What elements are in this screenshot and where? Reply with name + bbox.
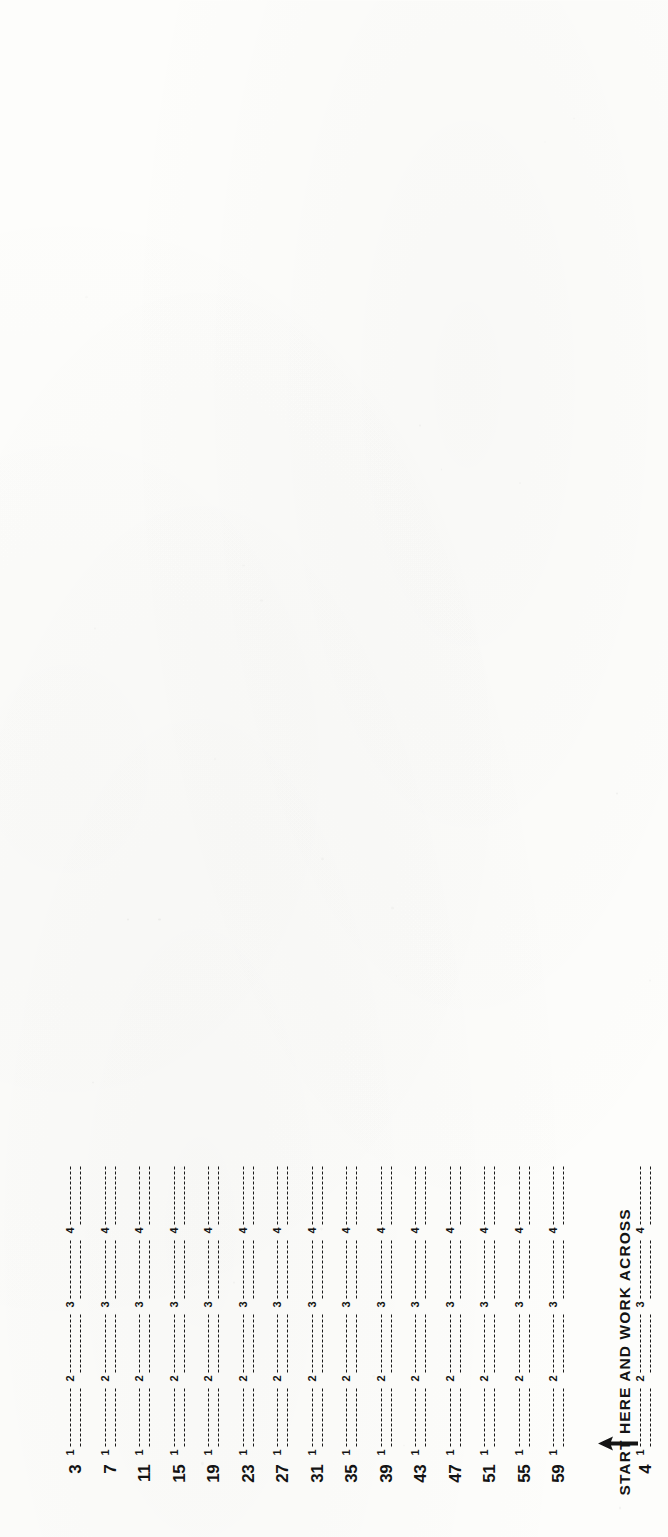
tally-cell[interactable]: 4 <box>377 1159 407 1233</box>
tally-cell[interactable]: 2 <box>204 1307 234 1381</box>
tally-cell[interactable]: 4 <box>549 1159 579 1233</box>
tally-cell[interactable]: 4 <box>239 1159 269 1233</box>
tally-cell[interactable]: 2 <box>515 1307 545 1381</box>
tally-cell[interactable]: 3 <box>239 1233 269 1307</box>
tally-cell-rules <box>205 1314 227 1372</box>
tally-cell[interactable]: 2 <box>308 1307 338 1381</box>
tally-cell[interactable]: 1 <box>515 1381 545 1455</box>
tally-cell[interactable]: 3 <box>342 1233 372 1307</box>
tally-rule-lower <box>356 1388 357 1446</box>
tally-cell[interactable]: 4 <box>636 1159 666 1233</box>
tally-rule-upper <box>139 1166 140 1224</box>
tally-cell[interactable]: 4 <box>411 1159 441 1233</box>
tally-cell-rules <box>516 1388 538 1446</box>
tally-cell[interactable]: 1 <box>446 1381 476 1455</box>
tally-cell-number: 3 <box>238 1301 249 1307</box>
tally-row: 191234 <box>204 0 239 1495</box>
tally-cell[interactable]: 3 <box>515 1233 545 1307</box>
tally-cell[interactable]: 4 <box>204 1159 234 1233</box>
tally-rule-lower <box>425 1314 426 1372</box>
tally-cell[interactable]: 3 <box>170 1233 200 1307</box>
tally-rule-upper <box>346 1240 347 1298</box>
tally-cell[interactable]: 2 <box>480 1307 510 1381</box>
tally-cell[interactable]: 2 <box>411 1307 441 1381</box>
tally-cell[interactable]: 3 <box>101 1233 131 1307</box>
tally-cell-number: 3 <box>307 1301 318 1307</box>
row-number: 31 <box>308 1455 328 1495</box>
tally-cell[interactable]: 3 <box>273 1233 303 1307</box>
tally-cell-rules <box>240 1314 262 1372</box>
tally-cells: 1234 <box>101 1159 131 1455</box>
tally-cell-rules <box>481 1388 503 1446</box>
tally-cell[interactable]: 4 <box>480 1159 510 1233</box>
tally-cell[interactable]: 1 <box>135 1381 165 1455</box>
tally-cell-rules <box>67 1166 89 1224</box>
tally-cell[interactable]: 3 <box>135 1233 165 1307</box>
tally-cell[interactable]: 2 <box>170 1307 200 1381</box>
tally-cell[interactable]: 3 <box>636 1233 666 1307</box>
tally-cell[interactable]: 1 <box>66 1381 96 1455</box>
tally-cell-number: 4 <box>169 1227 180 1233</box>
tally-cell[interactable]: 4 <box>308 1159 338 1233</box>
tally-cell[interactable]: 2 <box>549 1307 579 1381</box>
tally-cell[interactable]: 3 <box>549 1233 579 1307</box>
tally-cell-rules <box>274 1314 296 1372</box>
tally-cell-number: 4 <box>203 1227 214 1233</box>
tally-cell[interactable]: 4 <box>135 1159 165 1233</box>
tally-rule-lower <box>391 1166 392 1224</box>
tally-cell[interactable]: 3 <box>480 1233 510 1307</box>
tally-rule-lower <box>529 1314 530 1372</box>
tally-cell[interactable]: 4 <box>273 1159 303 1233</box>
tally-cell[interactable]: 1 <box>308 1381 338 1455</box>
tally-cell[interactable]: 3 <box>377 1233 407 1307</box>
tally-cell[interactable]: 2 <box>342 1307 372 1381</box>
tally-cell[interactable]: 3 <box>308 1233 338 1307</box>
tally-cell[interactable]: 2 <box>239 1307 269 1381</box>
tally-cell[interactable]: 1 <box>549 1381 579 1455</box>
tally-cell[interactable]: 2 <box>135 1307 165 1381</box>
tally-rule-upper <box>381 1388 382 1446</box>
row-number: 19 <box>204 1455 224 1495</box>
tally-cell[interactable]: 2 <box>636 1307 666 1381</box>
tally-cell[interactable]: 4 <box>342 1159 372 1233</box>
tally-cell[interactable]: 1 <box>636 1381 666 1455</box>
tally-cell[interactable]: 3 <box>66 1233 96 1307</box>
tally-cell-number: 1 <box>100 1449 111 1455</box>
tally-rule-upper <box>70 1166 71 1224</box>
tally-cell-number: 4 <box>307 1227 318 1233</box>
tally-rule-upper <box>519 1166 520 1224</box>
tally-cell[interactable]: 1 <box>239 1381 269 1455</box>
tally-cell[interactable]: 3 <box>204 1233 234 1307</box>
tally-cell[interactable]: 2 <box>446 1307 476 1381</box>
tally-cell-number: 2 <box>410 1375 421 1381</box>
tally-cell[interactable]: 4 <box>515 1159 545 1233</box>
tally-cell-rules <box>67 1314 89 1372</box>
tally-cell[interactable]: 2 <box>66 1307 96 1381</box>
tally-cell[interactable]: 1 <box>342 1381 372 1455</box>
tally-cells: 1234 <box>377 1159 407 1455</box>
tally-cell[interactable]: 4 <box>101 1159 131 1233</box>
tally-rule-lower <box>563 1166 564 1224</box>
tally-cell[interactable]: 2 <box>273 1307 303 1381</box>
tally-cell-number: 3 <box>548 1301 559 1307</box>
tally-cell-number: 4 <box>238 1227 249 1233</box>
tally-cell[interactable]: 1 <box>204 1381 234 1455</box>
tally-cell[interactable]: 1 <box>411 1381 441 1455</box>
tally-cell-number: 1 <box>272 1449 283 1455</box>
tally-cell[interactable]: 2 <box>377 1307 407 1381</box>
tally-cell[interactable]: 4 <box>446 1159 476 1233</box>
tally-cell[interactable]: 2 <box>101 1307 131 1381</box>
tally-cell[interactable]: 1 <box>170 1381 200 1455</box>
tally-cell[interactable]: 1 <box>480 1381 510 1455</box>
tally-cell[interactable]: 4 <box>170 1159 200 1233</box>
tally-cell[interactable]: 1 <box>377 1381 407 1455</box>
tally-cell[interactable]: 3 <box>446 1233 476 1307</box>
tally-cell-rules <box>516 1314 538 1372</box>
tally-cell[interactable]: 1 <box>273 1381 303 1455</box>
tally-cell-number: 3 <box>410 1301 421 1307</box>
tally-cell[interactable]: 4 <box>66 1159 96 1233</box>
tally-cell[interactable]: 3 <box>411 1233 441 1307</box>
tally-cell[interactable]: 1 <box>101 1381 131 1455</box>
column-group-b-header: START HERE AND WORK ACROSS <box>596 0 636 1495</box>
tally-cell-rules <box>343 1314 365 1372</box>
